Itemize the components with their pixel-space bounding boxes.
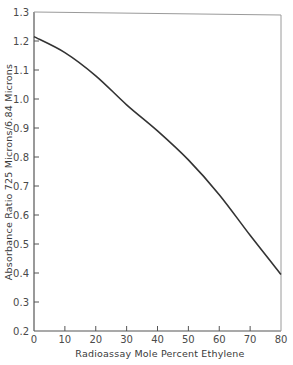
x-tick-label: 60: [213, 334, 226, 345]
y-tick-label: 1.1: [13, 65, 29, 76]
y-tick-label: 0.9: [13, 123, 29, 134]
y-tick-label: 0.3: [13, 297, 29, 308]
y-axis-ticks: 0.20.30.40.50.60.70.80.91.01.11.21.3: [13, 7, 39, 337]
y-tick-label: 0.2: [13, 326, 29, 337]
y-tick-label: 0.5: [13, 239, 29, 250]
x-axis-ticks: 01020304050607080: [31, 326, 288, 345]
x-tick-label: 70: [244, 334, 257, 345]
y-tick-label: 1.3: [13, 7, 29, 18]
x-tick-label: 80: [275, 334, 288, 345]
x-tick-label: 50: [182, 334, 195, 345]
y-axis-label: Absorbance Ratio 725 Microns/6.84 Micron…: [3, 64, 14, 280]
y-tick-label: 0.6: [13, 210, 29, 221]
y-tick-label: 0.7: [13, 181, 29, 192]
data-line: [34, 37, 281, 275]
chart: 0.20.30.40.50.60.70.80.91.01.11.21.3 010…: [0, 0, 293, 365]
x-tick-label: 0: [31, 334, 37, 345]
plot-frame: [34, 12, 281, 331]
y-tick-label: 0.8: [13, 152, 29, 163]
x-tick-label: 40: [151, 334, 164, 345]
y-tick-label: 1.0: [13, 94, 29, 105]
x-tick-label: 30: [120, 334, 133, 345]
y-tick-label: 0.4: [13, 268, 29, 279]
top-border: [34, 12, 281, 15]
x-axis-label: Radioassay Mole Percent Ethylene: [75, 348, 244, 359]
x-tick-label: 20: [89, 334, 102, 345]
x-tick-label: 10: [59, 334, 72, 345]
y-tick-label: 1.2: [13, 36, 29, 47]
